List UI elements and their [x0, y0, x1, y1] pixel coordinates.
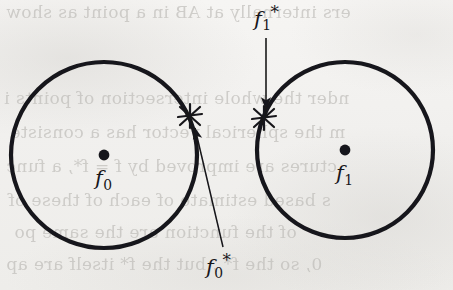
star-mark-left [178, 104, 202, 128]
star-mark-right [252, 106, 276, 130]
label-point-right-sup: * [271, 2, 279, 22]
label-center-left-base: f [95, 166, 103, 190]
arrow-to-point-left [195, 128, 223, 247]
label-center-right-base: f [336, 161, 344, 185]
figure-canvas: ers internally at AB in a point as show … [0, 0, 453, 290]
center-dot-right [340, 145, 351, 156]
label-center-left: f0 [95, 168, 112, 193]
label-point-left-base: f [206, 255, 214, 279]
diagram-svg [0, 0, 453, 290]
label-point-right-base: f [254, 7, 262, 31]
label-center-right: f1 [336, 163, 353, 188]
label-point-left: f0* [206, 252, 231, 281]
label-point-right-sub: 1 [262, 17, 271, 33]
center-dot-left [99, 150, 110, 161]
label-point-right: f1* [254, 4, 279, 33]
label-center-right-sub: 1 [344, 172, 353, 188]
label-point-left-sup: * [223, 250, 231, 270]
label-center-left-sub: 0 [103, 177, 112, 193]
label-point-left-sub: 0 [214, 265, 223, 281]
